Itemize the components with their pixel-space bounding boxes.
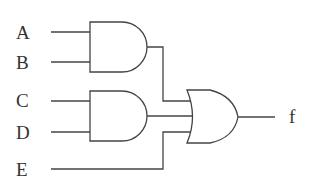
input-label-e: E (16, 159, 28, 180)
logic-circuit-diagram: A B C D E f (0, 0, 327, 193)
and-gate-1 (90, 22, 147, 72)
output-label-f: f (289, 106, 296, 127)
and1-to-or-wire (147, 47, 190, 101)
input-label-a: A (16, 22, 30, 43)
or-gate (187, 90, 238, 143)
input-label-d: D (16, 122, 30, 143)
input-label-c: C (16, 90, 29, 111)
and-gate-2 (90, 91, 147, 141)
input-label-b: B (16, 52, 29, 73)
